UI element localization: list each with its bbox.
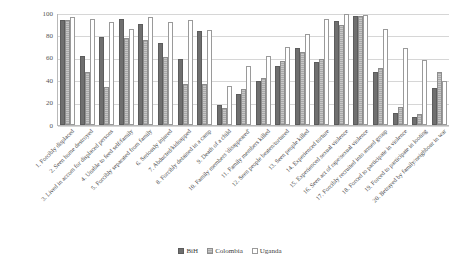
bar-group	[78, 14, 98, 125]
bar-group	[390, 14, 410, 125]
bar	[266, 56, 271, 125]
plot-area	[57, 14, 449, 126]
bar-group	[195, 14, 215, 125]
bar-group	[175, 14, 195, 125]
bar	[188, 20, 193, 125]
bar-group	[410, 14, 430, 125]
legend-item[interactable]: Colombia	[207, 247, 243, 255]
bar-group	[312, 14, 332, 125]
bar-groups	[58, 14, 449, 125]
bar-group	[253, 14, 273, 125]
bar	[109, 22, 114, 125]
y-axis-tick-label: 40	[31, 78, 53, 85]
bar	[207, 30, 212, 125]
x-axis-labels: 1. Forcibly displaced2. Seen home destro…	[57, 128, 449, 240]
bar-group	[429, 14, 449, 125]
y-axis-tick-label: 0	[31, 123, 53, 130]
legend-swatch-icon	[252, 248, 258, 254]
bar-group	[293, 14, 313, 125]
bar	[227, 86, 232, 125]
bar-group	[332, 14, 352, 125]
bar	[442, 81, 447, 125]
bar-group	[117, 14, 137, 125]
bar	[285, 47, 290, 125]
bar	[148, 17, 153, 125]
y-axis-tick-label: 60	[31, 55, 53, 62]
y-axis-tick-label: 20	[31, 100, 53, 107]
bar-group	[58, 14, 78, 125]
bar-group	[371, 14, 391, 125]
bar	[129, 29, 134, 125]
bar	[422, 60, 427, 125]
bar	[246, 66, 251, 125]
bar-group	[156, 14, 176, 125]
legend-label: BiH	[186, 247, 198, 255]
bar-group	[234, 14, 254, 125]
chart-legend: BiHColombiaUganda	[0, 247, 460, 255]
bar	[403, 48, 408, 125]
legend-item[interactable]: BiH	[178, 247, 198, 255]
bar-group	[273, 14, 293, 125]
bar-group	[136, 14, 156, 125]
gridline	[58, 126, 449, 127]
bar	[383, 29, 388, 125]
legend-label: Colombia	[215, 247, 243, 255]
bar-group	[351, 14, 371, 125]
legend-swatch-icon	[207, 248, 213, 254]
bar-chart: 020406080100 1. Forcibly displaced2. See…	[0, 0, 460, 268]
bar	[324, 19, 329, 125]
bar	[344, 14, 349, 125]
bar	[70, 17, 75, 125]
bar	[168, 22, 173, 125]
y-axis-tick-label: 100	[31, 11, 53, 18]
bar-group	[97, 14, 117, 125]
bar	[305, 34, 310, 125]
legend-label: Uganda	[260, 247, 282, 255]
legend-swatch-icon	[178, 248, 184, 254]
bar-group	[214, 14, 234, 125]
bar	[363, 15, 368, 125]
y-axis-tick-label: 80	[31, 33, 53, 40]
legend-item[interactable]: Uganda	[252, 247, 282, 255]
bar	[90, 19, 95, 125]
